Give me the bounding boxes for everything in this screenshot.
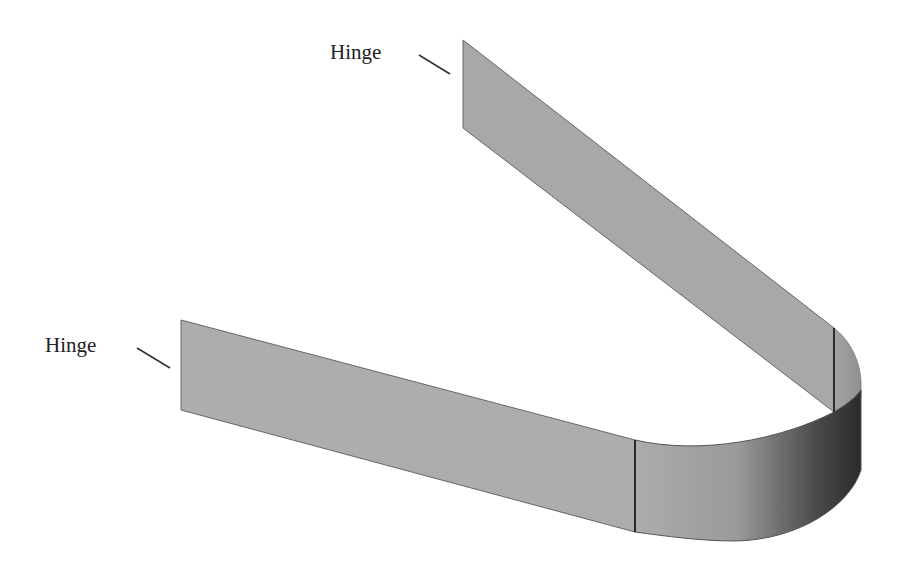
hinge-left-leader <box>137 348 170 368</box>
bottom-strip-panel <box>181 320 635 532</box>
hinge-top-label: Hinge <box>330 40 381 65</box>
hinge-top-leader <box>419 55 450 74</box>
top-strip-panel <box>463 40 834 412</box>
bent-strip-diagram <box>0 0 909 569</box>
curved-band-panel <box>635 390 861 541</box>
hinge-left-label: Hinge <box>45 333 96 358</box>
